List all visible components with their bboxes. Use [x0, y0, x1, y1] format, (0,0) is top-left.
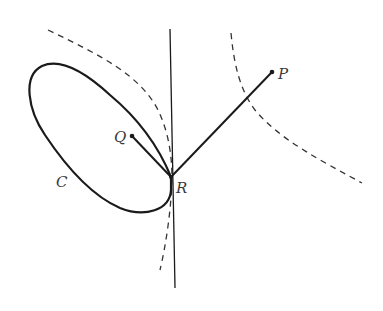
- segment-RP: [171, 72, 272, 177]
- point-R: [169, 175, 173, 179]
- label-C: C: [56, 173, 68, 191]
- label-P: P: [277, 65, 289, 83]
- point-Q: [130, 134, 135, 139]
- point-P: [270, 70, 275, 75]
- label-Q: Q: [114, 128, 126, 146]
- label-R: R: [175, 179, 187, 197]
- dashed-curve-right: [231, 33, 362, 183]
- curve-C: [29, 64, 171, 213]
- diagram-canvas: P Q R C: [0, 0, 383, 311]
